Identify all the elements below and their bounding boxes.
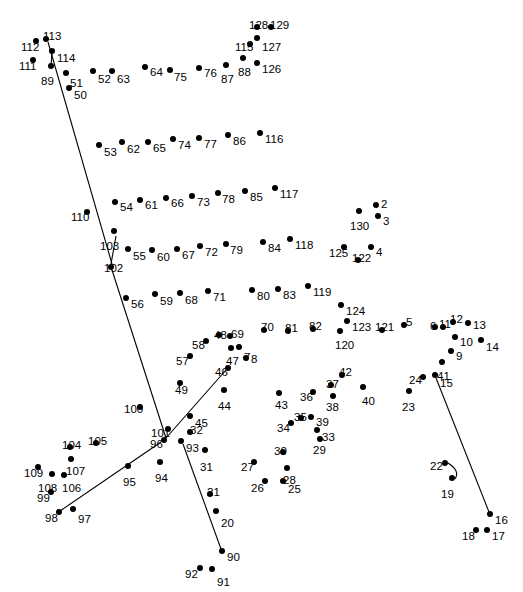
dot-53[interactable] (96, 142, 102, 148)
dot-label-75: 75 (174, 72, 187, 84)
dot-52[interactable] (90, 68, 96, 74)
dot-87[interactable] (223, 62, 229, 68)
dot-47[interactable] (228, 345, 234, 351)
dot-61[interactable] (137, 197, 143, 203)
dot-55[interactable] (125, 246, 131, 252)
dot-126[interactable] (254, 60, 260, 66)
dot-label-60: 60 (157, 252, 170, 264)
dot-78[interactable] (215, 190, 221, 196)
dot-label-58: 58 (192, 340, 205, 352)
dot-59[interactable] (152, 291, 158, 297)
dot-60[interactable] (149, 247, 155, 253)
dot-120[interactable] (337, 328, 343, 334)
dot-28[interactable] (284, 465, 290, 471)
dot-103[interactable] (111, 228, 117, 234)
dot-64[interactable] (142, 64, 148, 70)
dot-77[interactable] (196, 135, 202, 141)
dot-114[interactable] (49, 48, 55, 54)
dot-label-128: 128 (249, 20, 268, 32)
dot-74[interactable] (170, 136, 176, 142)
dot-label-34: 34 (277, 423, 290, 435)
dot-10[interactable] (452, 334, 458, 340)
dot-17[interactable] (484, 527, 490, 533)
dot-54[interactable] (112, 199, 118, 205)
dot-label-96: 96 (150, 439, 163, 451)
dot-8[interactable] (243, 355, 249, 361)
dot-20[interactable] (213, 508, 219, 514)
dot-71[interactable] (205, 288, 211, 294)
dot-119[interactable] (305, 283, 311, 289)
dot-label-115: 115 (235, 42, 253, 54)
dot-label-126: 126 (262, 64, 281, 76)
dot-51[interactable] (63, 70, 69, 76)
dot-117[interactable] (272, 185, 278, 191)
dot-19[interactable] (449, 475, 455, 481)
dot-label-93: 93 (186, 443, 199, 455)
dot-40[interactable] (360, 384, 366, 390)
dot-85[interactable] (242, 188, 248, 194)
dot-79[interactable] (223, 241, 229, 247)
dot-62[interactable] (119, 139, 125, 145)
dot-45[interactable] (187, 413, 193, 419)
dot-130[interactable] (356, 208, 362, 214)
dot-68[interactable] (177, 290, 183, 296)
dot-4[interactable] (368, 244, 374, 250)
dot-44[interactable] (221, 387, 227, 393)
dot-84[interactable] (260, 239, 266, 245)
dot-label-28: 28 (283, 475, 296, 487)
dot-39[interactable] (308, 414, 314, 420)
dot-66[interactable] (163, 195, 169, 201)
dot-92[interactable] (197, 565, 203, 571)
dot-94[interactable] (157, 459, 163, 465)
dot-90[interactable] (219, 548, 225, 554)
dot-label-103: 103 (100, 241, 119, 253)
dot-label-122: 122 (352, 253, 371, 265)
dot-107[interactable] (68, 456, 74, 462)
dot-73[interactable] (189, 193, 195, 199)
dot-14[interactable] (478, 337, 484, 343)
dot-91[interactable] (209, 566, 215, 572)
dot-63[interactable] (109, 68, 115, 74)
dot-56[interactable] (123, 295, 129, 301)
dot-93[interactable] (178, 438, 184, 444)
dot-23[interactable] (406, 388, 412, 394)
dot-83[interactable] (275, 286, 281, 292)
dot-124[interactable] (338, 302, 344, 308)
dot-38[interactable] (330, 393, 336, 399)
dot-72[interactable] (197, 243, 203, 249)
dot-65[interactable] (145, 139, 151, 145)
dot-label-18: 18 (462, 531, 475, 543)
dot-118[interactable] (287, 236, 293, 242)
dot-97[interactable] (70, 506, 76, 512)
dot-31[interactable] (202, 447, 208, 453)
dot-9[interactable] (448, 348, 454, 354)
dot-108[interactable] (49, 471, 55, 477)
dot-67[interactable] (174, 246, 180, 252)
dot-3[interactable] (375, 213, 381, 219)
dot-123[interactable] (344, 318, 350, 324)
dot-label-17: 17 (492, 531, 505, 543)
dot-16[interactable] (487, 511, 493, 517)
dot-41[interactable] (439, 359, 445, 365)
dot-80[interactable] (249, 287, 255, 293)
dot-89[interactable] (48, 63, 54, 69)
dot-95[interactable] (125, 463, 131, 469)
dot-label-52: 52 (98, 74, 111, 86)
dot-label-47: 47 (226, 356, 239, 368)
dot-43[interactable] (276, 390, 282, 396)
dot-75[interactable] (167, 67, 173, 73)
dot-label-49: 49 (175, 385, 188, 397)
dot-88[interactable] (240, 55, 246, 61)
dot-label-44: 44 (218, 401, 231, 413)
dot-7[interactable] (236, 344, 242, 350)
dot-label-70: 70 (261, 322, 274, 334)
dot-86[interactable] (225, 132, 231, 138)
dot-116[interactable] (257, 130, 263, 136)
dot-127[interactable] (254, 35, 260, 41)
dot-76[interactable] (196, 65, 202, 71)
dot-13[interactable] (465, 320, 471, 326)
dot-label-19: 19 (441, 489, 454, 501)
dot-22[interactable] (442, 460, 448, 466)
dot-2[interactable] (373, 202, 379, 208)
dot-label-20: 20 (221, 518, 234, 530)
